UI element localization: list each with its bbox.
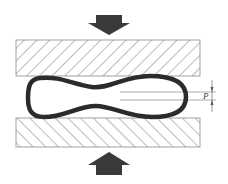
dimension-label: P bbox=[202, 91, 209, 101]
dimension-lines bbox=[120, 80, 216, 112]
bottom-plate bbox=[16, 118, 200, 147]
tube-cross-section bbox=[28, 76, 186, 117]
arrow-down-icon bbox=[88, 15, 130, 35]
compression-diagram: P bbox=[0, 0, 228, 184]
top-plate bbox=[16, 40, 200, 76]
arrow-up-icon bbox=[88, 152, 130, 175]
